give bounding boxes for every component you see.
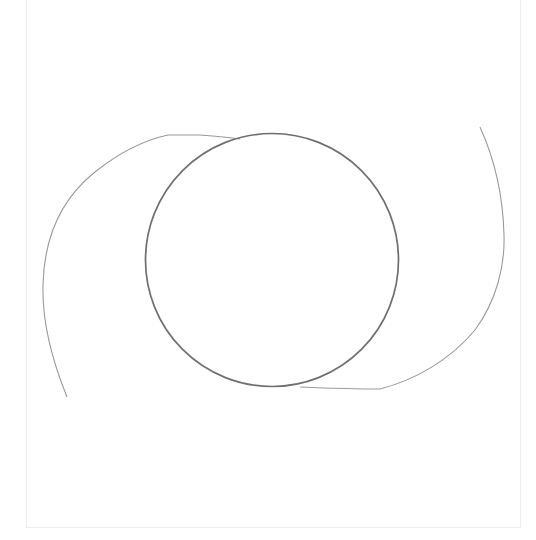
drawing-canvas xyxy=(0,0,536,540)
right-swirl-arc xyxy=(300,127,504,389)
center-circle xyxy=(146,134,399,387)
left-swirl-arc xyxy=(43,135,240,397)
